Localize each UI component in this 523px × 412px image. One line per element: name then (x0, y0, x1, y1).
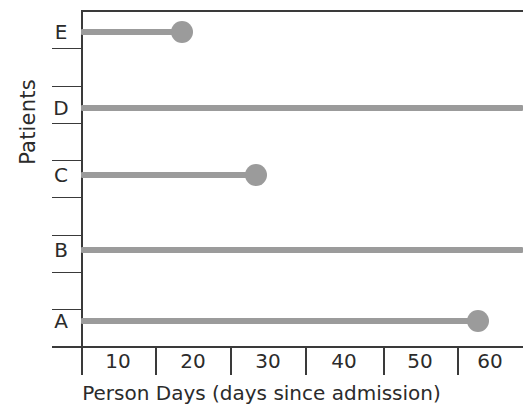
x-axis-label-10: 10 (88, 351, 148, 371)
y-axis-label-b: B (48, 240, 74, 260)
x-axis-label-50: 50 (390, 351, 450, 371)
x-axis-tick (457, 347, 459, 375)
x-axis-label-60: 60 (460, 351, 520, 371)
x-axis-tick (383, 347, 385, 375)
x-axis-label-20: 20 (163, 351, 223, 371)
y-axis-label-e: E (48, 22, 74, 42)
person-days-chart: Patients EDCBA 102030405060 Person Days … (0, 0, 523, 412)
x-axis-title: Person Days (days since admission) (0, 381, 523, 405)
plot-area (81, 10, 523, 347)
y-axis-label-d: D (48, 98, 74, 118)
y-axis-tick (52, 272, 83, 273)
x-axis-tick (230, 347, 232, 375)
x-axis-tick (155, 347, 157, 375)
y-axis-tick (52, 86, 83, 87)
series-line-patient-b (81, 247, 523, 253)
y-axis-title: Patients (16, 42, 40, 202)
series-line-patient-a (81, 318, 478, 324)
series-line-patient-e (81, 29, 182, 35)
y-axis-tick (52, 197, 83, 198)
x-axis-label-30: 30 (238, 351, 298, 371)
x-axis-tick (305, 347, 307, 375)
y-axis-tick (52, 235, 83, 236)
y-axis-tick (52, 123, 83, 124)
y-axis-label-a: A (48, 311, 74, 331)
series-line-patient-c (81, 172, 256, 178)
series-endpoint-marker-patient-c (245, 164, 267, 186)
series-endpoint-marker-patient-e (171, 21, 193, 43)
y-axis-tick (52, 160, 83, 161)
y-axis-label-c: C (48, 165, 74, 185)
x-axis-label-40: 40 (314, 351, 374, 371)
y-axis-tick (52, 346, 83, 347)
x-axis-tick (81, 347, 83, 375)
y-axis-tick (52, 48, 83, 49)
x-axis-line (52, 346, 523, 348)
series-endpoint-marker-patient-a (467, 310, 489, 332)
series-line-patient-d (81, 105, 523, 111)
